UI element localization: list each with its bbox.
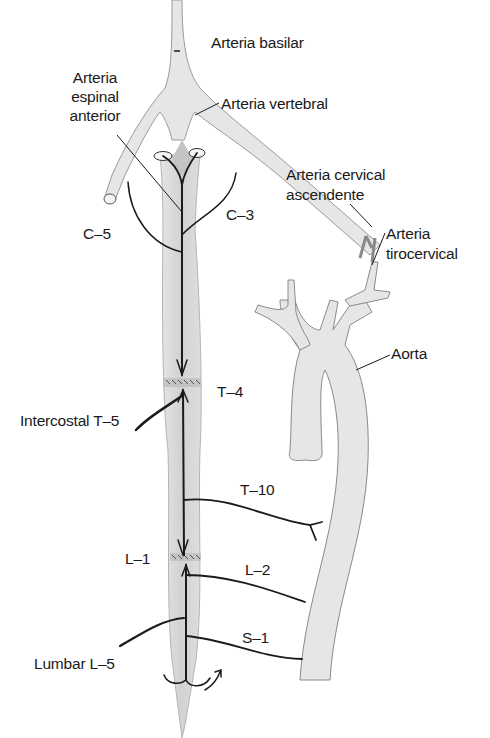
label-c5: C–5 [83,224,111,243]
label-arteria-espinal-anterior-2: espinal [55,87,135,106]
aorta [255,236,390,680]
label-intercostal-t5: Intercostal T–5 [20,411,119,430]
label-c3: C–3 [226,205,254,224]
label-l1: L–1 [125,549,150,568]
label-arteria-vertebral: Arteria vertebral [221,94,328,113]
label-t4: T–4 [217,382,243,401]
label-arteria-tirocervical-1: Arteria [386,224,430,243]
label-s1: S–1 [242,628,269,647]
label-aorta: Aorta [391,344,427,363]
label-arteria-cervical-ascendente-2: ascendente [286,185,364,204]
label-l2: L–2 [245,560,270,579]
label-lumbar-l5: Lumbar L–5 [34,654,115,673]
label-arteria-espinal-anterior-1: Arteria [55,68,135,87]
label-t10: T–10 [240,480,275,499]
label-arteria-basilar: Arteria basilar [211,33,304,52]
spinal-cord [154,140,205,738]
spinal-artery-diagram: Arteria basilar Arteria espinal anterior… [0,0,490,738]
label-arteria-tirocervical-2: tirocervical [386,244,458,263]
label-arteria-espinal-anterior-3: anterior [55,106,135,125]
label-arteria-cervical-ascendente-1: Arteria cervical [286,165,385,184]
